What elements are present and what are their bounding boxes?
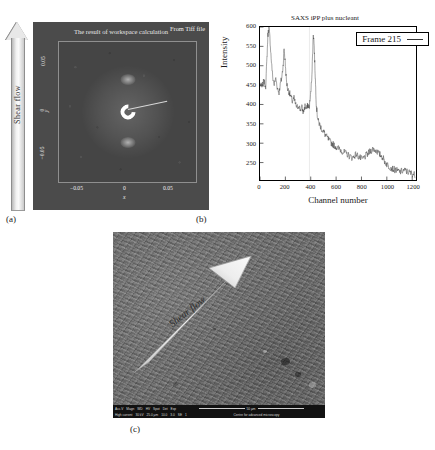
caption-panel-c: (c) <box>130 424 140 434</box>
chart-ytick-0: 250 <box>234 159 256 166</box>
chart-xtick-0: 0 <box>247 183 271 190</box>
sem-info-field-1: Magn <box>126 407 134 411</box>
chart-plot-area <box>259 26 417 181</box>
caption-panel-a: (a) <box>6 214 16 224</box>
sem-info-value-6: 1 <box>185 413 187 417</box>
sem-info-field-2: WD <box>137 407 142 411</box>
sem-info-value-1: 30 kV <box>135 413 143 417</box>
panel-a-saxs-pattern: Shear flow The result of workspace calcu… <box>0 10 215 210</box>
sem-info-value-0: High current <box>115 413 132 417</box>
meridional-lobe-upper <box>120 74 135 85</box>
sem-info-value-2: 25.0 µm <box>147 413 159 417</box>
sem-surface-feature-3 <box>173 382 178 386</box>
panel-a-ytick-2: −0.05 <box>39 147 45 160</box>
chart-ytick-6: 550 <box>234 42 256 49</box>
sem-info-field-4: Spot <box>153 407 160 411</box>
sem-info-field-0: Acc.V <box>115 407 123 411</box>
sem-info-field-6: Exp <box>171 407 177 411</box>
chart-ytick-5: 500 <box>234 61 256 68</box>
caption-panel-b: (b) <box>196 214 207 224</box>
panel-c-sem-micrograph: Shear flow Acc.VMagnWDHVSpotDetExp50 µm … <box>113 232 325 418</box>
sem-surface-feature-1 <box>295 372 301 377</box>
panel-a-xtick-0: −0.05 <box>70 185 83 191</box>
meridional-lobe-lower <box>120 137 135 148</box>
sem-info-bar: Acc.VMagnWDHVSpotDetExp50 µm High curren… <box>113 405 325 418</box>
chart-ytick-2: 350 <box>234 120 256 127</box>
chart-xtick-1: 200 <box>273 183 297 190</box>
sem-surface-feature-4 <box>309 382 316 388</box>
sem-info-row-2: High current30 kV25.0 µm10.03.0SE1Centre… <box>113 412 325 418</box>
chart-ytick-7: 600 <box>234 22 256 29</box>
panel-a-xtick-1: 0 <box>123 185 126 191</box>
chart-ylabel: Intensity <box>219 37 229 69</box>
panel-a-ytick-0: 0.05 <box>40 56 46 66</box>
sem-image: Shear flow Acc.VMagnWDHVSpotDetExp50 µm … <box>113 232 325 418</box>
saxs-source-note: From Tiff file <box>170 25 205 32</box>
chart-ytick-3: 400 <box>234 100 256 107</box>
saxs-pattern-image: The result of workspace calculation From… <box>33 22 209 210</box>
sem-info-field-3: HV <box>146 407 150 411</box>
sem-info-field-5: Det <box>163 407 168 411</box>
sem-scale-label: 50 µm <box>247 407 256 411</box>
panel-a-ylabel: y <box>43 110 49 113</box>
chart-ytick-4: 450 <box>234 81 256 88</box>
legend-entry-label: Frame 215 <box>362 34 401 44</box>
legend-line-swatch <box>407 39 423 40</box>
chart-ytick-1: 300 <box>234 140 256 147</box>
chart-xtick-2: 400 <box>298 183 322 190</box>
panel-a-xtick-2: 0.05 <box>163 185 173 191</box>
chart-xtick-5: 1000 <box>375 183 399 190</box>
panel-a-xlabel: x <box>123 194 126 200</box>
saxs-plot-area <box>58 41 197 183</box>
chart-title: SAXS iPP plus nucleant <box>215 14 435 22</box>
panel-b-intensity-chart: SAXS iPP plus nucleant Intensity Frame 2… <box>215 12 435 212</box>
sem-scale-bar: 50 µm <box>179 407 323 411</box>
chart-xlabel: Channel number <box>259 195 417 205</box>
sem-info-footer: Centre for advanced microscopy <box>190 413 323 417</box>
series-frame-215 <box>260 27 415 178</box>
chart-xtick-4: 800 <box>350 183 374 190</box>
shear-flow-arrow-panel-a: Shear flow <box>6 22 28 210</box>
chart-xtick-3: 600 <box>324 183 348 190</box>
intensity-line-series <box>260 27 416 180</box>
sem-info-value-3: 10.0 <box>161 413 167 417</box>
sem-info-value-4: 3.0 <box>170 413 174 417</box>
chart-legend[interactable]: Frame 215 <box>356 32 429 46</box>
sem-info-value-5: SE <box>178 413 182 417</box>
shear-flow-label: Shear flow <box>13 72 22 138</box>
chart-xtick-6: 1200 <box>401 183 425 190</box>
